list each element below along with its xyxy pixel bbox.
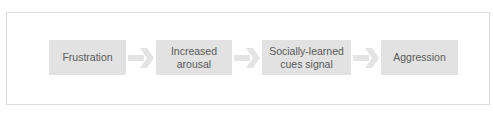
arrow-right-icon [234, 47, 260, 69]
node-frustration: Frustration [49, 40, 126, 75]
node-label: Aggression [393, 51, 446, 64]
node-increased-arousal: Increased arousal [156, 40, 232, 75]
node-label: Socially-learned cues signal [269, 45, 344, 70]
node-label: Frustration [62, 51, 112, 64]
arrow-right-icon [353, 47, 379, 69]
arrow-right-icon [128, 47, 154, 69]
node-aggression: Aggression [381, 40, 458, 75]
node-socially-learned-cues: Socially-learned cues signal [262, 40, 351, 75]
node-label: Increased arousal [171, 45, 217, 70]
